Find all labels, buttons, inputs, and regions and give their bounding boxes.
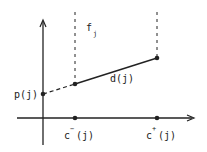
label-cminus-sup: − — [70, 125, 74, 133]
cminus-upper-point — [73, 82, 78, 87]
label-p: p(j) — [14, 89, 38, 100]
cplus-axis-point — [155, 116, 160, 121]
label-f-sub: j — [93, 30, 97, 38]
label-cminus-arg: (j) — [76, 130, 94, 141]
diagram-canvas: p(j) d(j) f j c − (j) c + (j) — [0, 0, 207, 152]
label-cplus-sup: + — [152, 125, 156, 133]
extension-dashed-line — [43, 84, 75, 94]
cplus-upper-point — [155, 56, 160, 61]
p-point — [41, 92, 46, 97]
cminus-axis-point — [73, 116, 78, 121]
label-cplus-arg: (j) — [158, 130, 176, 141]
label-f: f — [86, 22, 92, 33]
label-d: d(j) — [110, 73, 134, 84]
